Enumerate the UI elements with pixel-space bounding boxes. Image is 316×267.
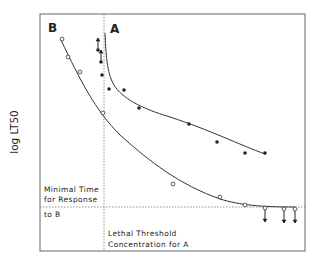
data-point bbox=[293, 207, 297, 211]
minimal-time-label-2: for Response bbox=[44, 195, 98, 204]
data-point bbox=[137, 106, 141, 110]
curve-a-label: A bbox=[110, 22, 120, 36]
data-point bbox=[99, 60, 103, 64]
curve-b-label: B bbox=[48, 21, 57, 35]
lethal-threshold-label-1: Lethal Threshold bbox=[108, 229, 177, 238]
data-point bbox=[101, 111, 105, 115]
data-point bbox=[122, 88, 126, 92]
y-axis-label: log LT50 bbox=[8, 110, 20, 154]
curve-a bbox=[105, 33, 265, 154]
data-point bbox=[60, 37, 64, 41]
chart: B A Minimal Time for Response to B Letha… bbox=[0, 0, 316, 267]
curve-b bbox=[61, 40, 295, 207]
data-point bbox=[215, 140, 219, 144]
data-point bbox=[100, 73, 104, 77]
data-point bbox=[218, 195, 222, 199]
data-point bbox=[171, 182, 175, 186]
minimal-time-label-1: Minimal Time bbox=[44, 185, 99, 194]
data-point bbox=[243, 203, 247, 207]
data-point bbox=[282, 207, 286, 211]
curve-a-points bbox=[96, 38, 267, 155]
data-point bbox=[107, 87, 111, 91]
data-point bbox=[78, 70, 82, 74]
data-point bbox=[263, 151, 267, 155]
data-point bbox=[66, 55, 70, 59]
lethal-threshold-label-2: Concentration for A bbox=[108, 240, 189, 249]
minimal-time-label-3: to B bbox=[44, 210, 61, 219]
data-point bbox=[187, 122, 191, 126]
data-point bbox=[243, 151, 247, 155]
data-point bbox=[263, 206, 267, 210]
data-point bbox=[96, 48, 100, 52]
